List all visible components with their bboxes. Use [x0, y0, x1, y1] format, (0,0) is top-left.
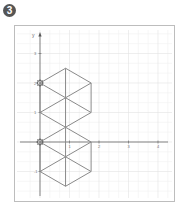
upper-hexagon	[40, 68, 91, 127]
x-tick-label: 1	[69, 144, 72, 149]
y-axis-arrow-icon	[38, 32, 41, 37]
triangle-division-line	[40, 98, 66, 113]
triangle-division-line	[40, 142, 66, 157]
x-tick-label: 4	[157, 144, 160, 149]
lower-hexagon	[40, 127, 91, 186]
y-axis-label: y	[32, 32, 35, 38]
triangle-division-line	[40, 157, 66, 172]
hexagon-shapes	[40, 68, 91, 186]
triangle-division-line	[40, 83, 66, 98]
x-tick-label: 2	[98, 144, 101, 149]
coordinate-plane: 1234-1123 y	[0, 0, 187, 217]
x-tick-label: 3	[128, 144, 131, 149]
